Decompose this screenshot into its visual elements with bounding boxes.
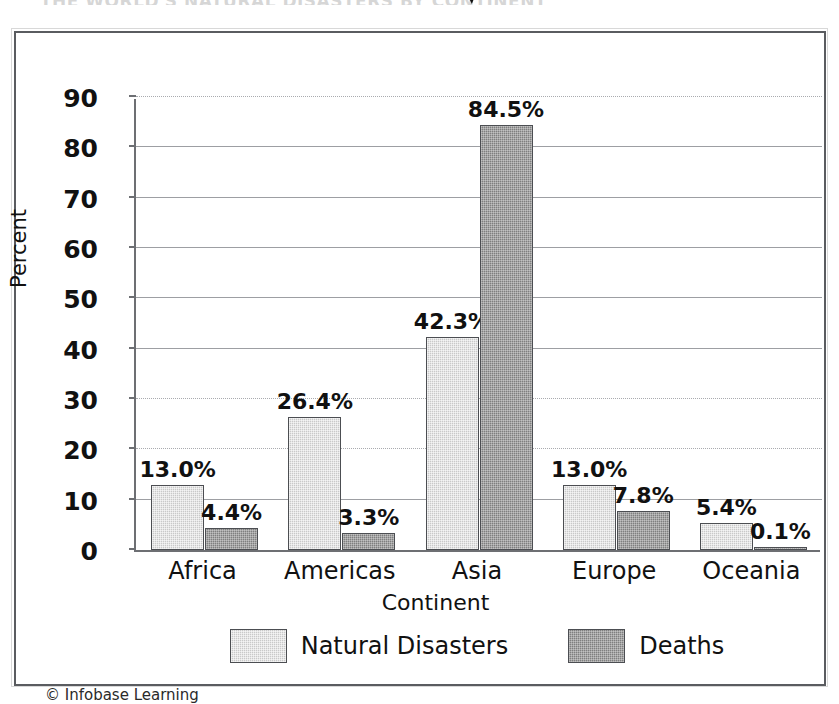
legend-label: Natural Disasters xyxy=(301,632,509,660)
bar-value-label: 84.5% xyxy=(464,99,549,121)
chart-legend: Natural DisastersDeaths xyxy=(134,629,820,663)
bar-value-label: 5.4% xyxy=(684,497,769,519)
bar-asia-deaths[interactable] xyxy=(480,125,533,550)
y-axis-tick-label: 40 xyxy=(18,338,98,363)
legend-item-deaths[interactable]: Deaths xyxy=(568,629,724,663)
bar-value-label: 4.4% xyxy=(189,502,274,524)
y-axis-tick-mark xyxy=(129,246,136,248)
y-axis-tick-label: 10 xyxy=(18,489,98,514)
bar-europe-deaths[interactable] xyxy=(617,511,670,550)
bar-americas-natural-disasters[interactable] xyxy=(288,417,341,550)
bar-value-label: 13.0% xyxy=(547,459,632,481)
bar-africa-deaths[interactable] xyxy=(205,528,258,550)
legend-swatch-icon xyxy=(568,629,625,663)
x-axis-title: Continent xyxy=(16,590,839,615)
plot-area: 13.0%4.4%26.4%3.3%42.3%84.5%13.0%7.8%5.4… xyxy=(134,99,820,552)
y-axis-tick-mark xyxy=(129,196,136,198)
y-axis-tick-mark xyxy=(129,498,136,500)
bar-value-label: 3.3% xyxy=(326,507,411,529)
y-axis-tick-label: 90 xyxy=(18,86,98,111)
legend-item-natural-disasters[interactable]: Natural Disasters xyxy=(230,629,509,663)
legend-swatch-icon xyxy=(230,629,287,663)
y-axis-tick-label: 60 xyxy=(18,237,98,262)
bar-asia-natural-disasters[interactable] xyxy=(426,337,479,550)
bar-oceania-deaths[interactable] xyxy=(754,547,807,550)
bar-value-label: 0.1% xyxy=(738,521,823,543)
clipped-title: THE WORLD'S NATURAL DISASTERS BY CONTINE… xyxy=(40,0,740,5)
bar-americas-deaths[interactable] xyxy=(342,533,395,550)
y-axis-tick-label: 0 xyxy=(18,539,98,564)
y-axis-tick-label: 50 xyxy=(18,287,98,312)
y-axis-tick-mark xyxy=(129,296,136,298)
bar-value-label: 26.4% xyxy=(272,391,357,413)
y-axis-tick-mark xyxy=(129,397,136,399)
bar-value-label: 13.0% xyxy=(135,459,220,481)
legend-label: Deaths xyxy=(639,632,724,660)
copyright-notice: © Infobase Learning xyxy=(45,686,199,704)
y-axis-tick-mark xyxy=(129,95,136,97)
y-axis-tick-mark xyxy=(129,447,136,449)
bar-value-label: 7.8% xyxy=(601,485,686,507)
y-axis-tick-label: 30 xyxy=(18,388,98,413)
y-axis-tick-mark xyxy=(129,548,136,550)
chart-inner-frame: Percent 13.0%4.4%26.4%3.3%42.3%84.5%13.0… xyxy=(14,31,826,686)
y-axis-tick-label: 20 xyxy=(18,438,98,463)
y-axis-tick-mark xyxy=(129,145,136,147)
y-axis-tick-mark xyxy=(129,347,136,349)
x-axis-category-oceania: Oceania xyxy=(661,557,839,585)
y-axis-tick-label: 80 xyxy=(18,136,98,161)
y-axis-tick-label: 70 xyxy=(18,187,98,212)
